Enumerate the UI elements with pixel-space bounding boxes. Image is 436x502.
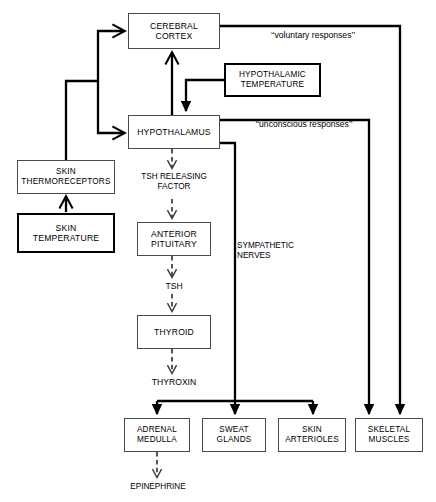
node-hypothalamic-temperature-label: HYPOTHALAMIC TEMPERATURE [239,70,306,89]
node-skin-arterioles[interactable]: SKIN ARTERIOLES [278,418,346,452]
node-thyroid-label: THYROID [154,327,194,337]
label-thyroxin: THYROXIN [140,377,208,387]
label-unconscious-responses: ‘‘unconscious responses’’ [229,119,379,129]
edge-thermoreceptors-to-hypothalamus [98,81,124,133]
node-hypothalamus-label: HYPOTHALAMUS [137,127,211,137]
node-skeletal-muscles[interactable]: SKELETAL MUSCLES [355,418,423,452]
label-voluntary-responses: ‘‘voluntary responses’’ [243,30,383,40]
label-tsh: TSH [150,281,198,291]
node-thyroid[interactable]: THYROID [137,315,211,349]
node-hypothalamus[interactable]: HYPOTHALAMUS [128,115,220,149]
node-cerebral-cortex[interactable]: CEREBRAL CORTEX [128,13,220,49]
node-hypothalamic-temperature[interactable]: HYPOTHALAMIC TEMPERATURE [224,63,321,97]
node-sweat-glands-label: SWEAT GLANDS [217,425,252,444]
node-skin-temperature[interactable]: SKIN TEMPERATURE [17,213,115,253]
edge-hypothalamic-temperature-to-hypothalamus [186,80,224,111]
label-epinephrine: EPINEPHRINE [117,482,199,492]
node-anterior-pituitary[interactable]: ANTERIOR PITUITARY [137,222,211,256]
edge-thermoreceptors-trunk [66,81,98,160]
node-skin-arterioles-label: SKIN ARTERIOLES [285,425,339,444]
label-sympathetic-nerves: SYMPATHETIC NERVES [237,241,327,260]
node-adrenal-medulla[interactable]: ADRENAL MEDULLA [124,418,190,452]
edge-hypothalamus-to-skeletal-muscles [220,120,369,414]
node-sweat-glands[interactable]: SWEAT GLANDS [202,418,266,452]
node-adrenal-medulla-label: ADRENAL MEDULLA [137,425,177,444]
node-skin-thermoreceptors-label: SKIN THERMORECEPTORS [21,167,110,186]
edge-thermoreceptors-to-cerebral-cortex [98,31,124,81]
node-anterior-pituitary-label: ANTERIOR PITUITARY [151,229,197,249]
edge-hypothalamus-sympathetic-trunk [220,143,235,401]
node-skeletal-muscles-label: SKELETAL MUSCLES [368,425,410,444]
label-tsh-releasing-factor: TSH RELEASING FACTOR [131,172,217,191]
node-skin-temperature-label: SKIN TEMPERATURE [33,223,100,243]
node-cerebral-cortex-label: CEREBRAL CORTEX [150,21,198,41]
diagram-canvas: CEREBRAL CORTEX HYPOTHALAMIC TEMPERATURE… [0,0,436,502]
node-skin-thermoreceptors[interactable]: SKIN THERMORECEPTORS [17,160,115,194]
